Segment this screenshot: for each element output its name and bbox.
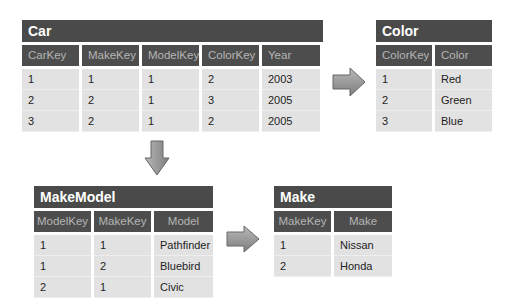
column-header: Model [154, 211, 213, 232]
right-arrow-icon [226, 225, 260, 253]
column-header: ColorKey [202, 45, 259, 66]
table-cell: 2 [82, 111, 139, 132]
column-header: ModelKey [34, 211, 91, 232]
down-arrow-icon [144, 140, 170, 176]
table-cell: 1 [94, 277, 151, 298]
column-header: Year [262, 45, 320, 66]
column-header: CarKey [22, 45, 79, 66]
table-cell: 1 [22, 69, 79, 90]
table-cell: Green [435, 90, 492, 111]
table-cell: 2 [376, 90, 432, 111]
table-cell: Honda [334, 256, 392, 277]
table-cell: 1 [376, 69, 432, 90]
table-title: MakeModel [34, 186, 213, 208]
table-cell: 3 [376, 111, 432, 132]
table-cell: Pathfinder [154, 235, 213, 256]
table-cell: 2 [82, 90, 139, 111]
table-cell: Nissan [334, 235, 392, 256]
table-cell: 3 [202, 90, 259, 111]
car-table: Car CarKey MakeKey ModelKey ColorKey Yea… [22, 20, 323, 132]
column-header: MakeKey [94, 211, 151, 232]
make-table: Make MakeKey Make 1 Nissan 2 Honda [274, 186, 392, 277]
table-title: Make [274, 186, 392, 208]
table-cell: 1 [34, 235, 91, 256]
column-header: Color [435, 45, 492, 66]
makemodel-table: MakeModel ModelKey MakeKey Model 1 1 Pat… [34, 186, 213, 298]
table-cell: 1 [274, 235, 331, 256]
table-cell: 2 [94, 256, 151, 277]
table-cell: 2 [274, 256, 331, 277]
column-header: ColorKey [376, 45, 432, 66]
table-cell: 1 [142, 111, 199, 132]
table-cell: 2 [34, 277, 91, 298]
table-cell: 2003 [262, 69, 320, 90]
color-table: Color ColorKey Color 1 Red 2 Green 3 Blu… [376, 20, 492, 132]
right-arrow-icon [332, 67, 366, 97]
column-header: MakeKey [274, 211, 331, 232]
column-header: Make [334, 211, 392, 232]
table-cell: 2 [22, 90, 79, 111]
table-cell: Bluebird [154, 256, 213, 277]
table-cell: 1 [94, 235, 151, 256]
table-cell: 2005 [262, 90, 320, 111]
table-cell: 2005 [262, 111, 320, 132]
column-header: MakeKey [82, 45, 139, 66]
table-title: Car [22, 20, 323, 42]
column-header: ModelKey [142, 45, 199, 66]
table-cell: 3 [22, 111, 79, 132]
table-cell: 1 [34, 256, 91, 277]
table-cell: 1 [142, 90, 199, 111]
table-cell: 1 [82, 69, 139, 90]
table-cell: 1 [142, 69, 199, 90]
table-cell: Blue [435, 111, 492, 132]
table-cell: Red [435, 69, 492, 90]
table-cell: 2 [202, 111, 259, 132]
table-cell: 2 [202, 69, 259, 90]
table-title: Color [376, 20, 492, 42]
table-cell: Civic [154, 277, 213, 298]
